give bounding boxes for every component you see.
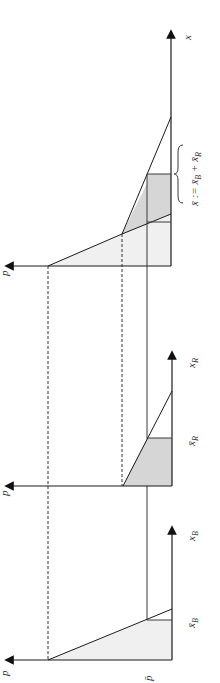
panel-aggregate: x p x̄ := x̄B + x̄R bbox=[0, 34, 203, 277]
x-bar-r-label: x̄R bbox=[185, 436, 200, 447]
xb-axis-label: xB bbox=[185, 531, 200, 542]
b-shaded-region bbox=[48, 620, 172, 660]
brace-icon bbox=[174, 145, 183, 203]
r-shaded-region bbox=[123, 438, 172, 486]
p-bar-label: p̄ bbox=[142, 675, 154, 682]
panel-r: xR x̄R p bbox=[0, 355, 200, 497]
brace-label: x̄ := x̄B + x̄R bbox=[188, 152, 203, 207]
p-axis-label-middle: p bbox=[0, 490, 10, 497]
supply-summation-diagram: x p x̄ := x̄B + x̄R xR x̄R p bbox=[0, 0, 220, 683]
x-axis-label: x bbox=[181, 35, 193, 41]
p-axis-label-top: p bbox=[0, 270, 10, 277]
xr-axis-label: xR bbox=[185, 358, 200, 369]
svg-text:x̄ := x̄B + x̄R: x̄ := x̄B + x̄R bbox=[188, 152, 203, 207]
x-bar-b-label: x̄B bbox=[185, 618, 200, 629]
panel-b: xB x̄B p p̄ bbox=[0, 530, 200, 682]
p-axis-label-bottom: p bbox=[0, 670, 10, 677]
